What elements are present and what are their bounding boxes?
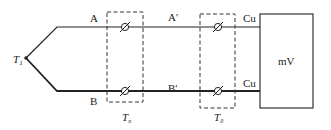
- thermocouple-diagram: T1 A B A' B' Cu Cu mV Tn T0: [0, 0, 331, 130]
- wire-a-label: A: [90, 12, 98, 24]
- junction-box-tn: [107, 12, 143, 102]
- meter-label: mV: [278, 55, 295, 67]
- copper-lower-label: Cu: [243, 77, 256, 89]
- junction-t0-label: T0: [214, 111, 223, 124]
- terminal-icon: [213, 22, 223, 32]
- terminal-icon: [120, 22, 130, 32]
- copper-upper-label: Cu: [243, 12, 256, 24]
- thermocouple-wires: [24, 27, 260, 91]
- hot-junction-dot: [24, 56, 28, 60]
- wire-b-prime-label: B': [168, 82, 177, 94]
- junction-tn-label: Tn: [122, 111, 131, 124]
- junction-box-t0: [200, 14, 235, 108]
- terminal-icon: [120, 86, 130, 96]
- junction-t1-label: T1: [13, 53, 23, 67]
- wire-b-label: B: [90, 95, 97, 107]
- wire-a-prime-label: A': [168, 11, 178, 23]
- terminal-icon: [213, 86, 223, 96]
